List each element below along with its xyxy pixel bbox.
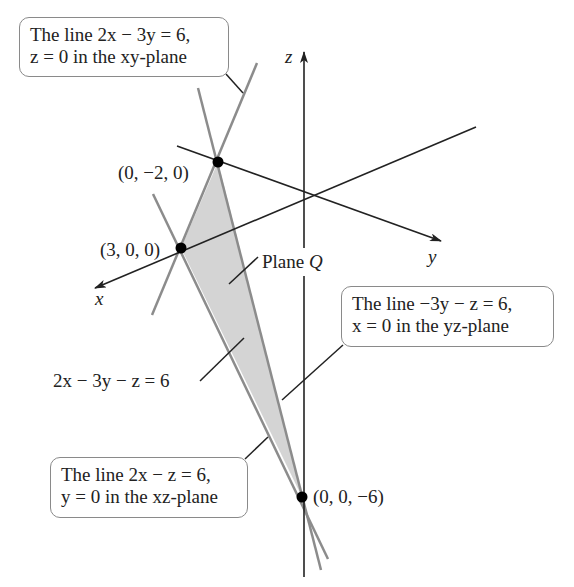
callout-yz-line1: The line −3y − z = 6,: [352, 293, 545, 315]
z-axis-label: z: [284, 46, 293, 67]
point-label-0-0-neg6: (0, 0, −6): [313, 486, 384, 508]
point-0-0-neg6: [297, 492, 308, 503]
plane-q-label: Plane Q: [262, 251, 323, 272]
y-axis-label: y: [426, 246, 437, 267]
callout-yz-trace: The line −3y − z = 6, x = 0 in the yz-pl…: [341, 286, 554, 347]
point-3-0-0: [176, 243, 187, 254]
plane-equation-label: 2x − 3y − z = 6: [53, 370, 170, 391]
diagram-canvas: z y x (0, −2, 0) (3, 0, 0) (0, 0, −6) Pl…: [0, 0, 574, 587]
callout-xy-line1: The line 2x − 3y = 6,: [30, 24, 220, 46]
callout-xy-line2: z = 0 in the xy-plane: [30, 46, 220, 68]
plane-q-name: Q: [309, 251, 323, 272]
leader-xy-callout: [226, 74, 243, 93]
callout-xz-line1: The line 2x − z = 6,: [61, 464, 239, 486]
point-0-neg2-0: [213, 157, 224, 168]
point-label-0-neg2-0: (0, −2, 0): [118, 162, 189, 184]
x-axis-label: x: [94, 288, 104, 309]
callout-yz-line2: x = 0 in the yz-plane: [352, 315, 545, 337]
callout-xz-trace: The line 2x − z = 6, y = 0 in the xz-pla…: [50, 457, 248, 518]
plane-q-triangle: [181, 162, 302, 497]
plane-q-prefix: Plane: [262, 251, 309, 272]
leader-xz-callout: [245, 437, 268, 459]
callout-xy-trace: The line 2x − 3y = 6, z = 0 in the xy-pl…: [19, 17, 229, 77]
callout-xz-line2: y = 0 in the xz-plane: [61, 486, 239, 508]
leader-yz-callout: [282, 345, 343, 400]
point-label-3-0-0: (3, 0, 0): [100, 239, 160, 261]
